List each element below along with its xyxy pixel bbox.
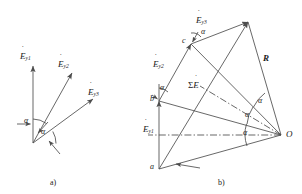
caption-panel-b: b): [218, 178, 225, 187]
angle-label-b-at-b: α: [160, 84, 164, 92]
caption-panel-a: a): [50, 178, 56, 187]
panel-a-graphics: [17, 66, 93, 154]
radius-O-b: [159, 101, 281, 135]
label-ey1-b: ˙Ey1: [143, 125, 154, 135]
chord-sum-ad: [159, 22, 248, 169]
angle-pointer-a2: [49, 141, 60, 154]
label-sum-E: Σ˙E: [188, 81, 199, 90]
label-ey3-a-sub: y3: [94, 91, 99, 97]
label-ey1-b-sub: y1: [149, 128, 154, 134]
label-ey1-a: ˙Ey1: [20, 52, 31, 62]
angle-label-b-O-lower: α: [243, 129, 247, 137]
label-ey3-b-sub: y3: [202, 19, 207, 25]
chord-bc: [159, 44, 191, 101]
angle-label-a2: α: [41, 128, 45, 136]
angle-label-b-O-middle: α: [245, 111, 249, 119]
point-label-O: O: [286, 130, 293, 139]
label-ey2-a-sub: y2: [64, 63, 69, 69]
label-ey3-a: ˙Ey3: [88, 88, 99, 98]
point-label-b: b: [150, 95, 154, 103]
label-ey3-b: ˙Ey3: [196, 16, 207, 26]
label-ey2-a: ˙Ey2: [58, 60, 69, 70]
label-ey1-a-sub: y1: [26, 55, 31, 61]
angle-label-b-at-c: α: [201, 28, 205, 36]
angle-label-b-O-upper: α: [258, 97, 262, 105]
angle-label-a1: α: [24, 117, 28, 125]
angle-arc-a2: [53, 132, 56, 144]
point-label-c: c: [182, 37, 186, 45]
label-ey2-b: ˙Ey2: [153, 60, 164, 70]
label-ey2-b-sub: y2: [159, 63, 164, 69]
point-label-a: a: [150, 163, 154, 171]
label-radius-R: R: [263, 54, 269, 63]
angle-pointer-caption-b: [176, 164, 200, 168]
